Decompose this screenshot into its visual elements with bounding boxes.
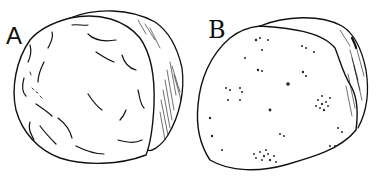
tuber-a-drawing [0, 0, 190, 179]
figure-label-b: B [208, 16, 226, 44]
figure-a: A [0, 0, 190, 179]
figure-b: B [190, 0, 380, 179]
figure-label-a: A [6, 22, 22, 50]
